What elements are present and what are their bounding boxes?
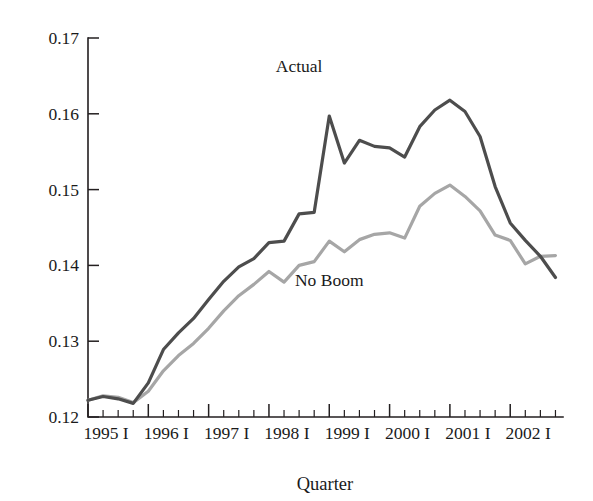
series-label-no-boom: No Boom <box>295 270 364 290</box>
x-axis-title: Quarter <box>297 474 354 494</box>
x-tick-label: 1998 I <box>264 423 309 443</box>
x-tick-label: 2001 I <box>445 423 490 443</box>
y-tick-label: 0.15 <box>48 180 79 200</box>
y-tick-label: 0.13 <box>48 331 79 351</box>
line-chart: 0.120.130.140.150.160.17 1995 I1996 I199… <box>0 0 593 501</box>
y-tick-label: 0.12 <box>48 407 79 427</box>
y-tick-label: 0.17 <box>48 28 79 48</box>
x-tick-label: 1995 I <box>83 423 128 443</box>
x-tick-label: 2000 I <box>385 423 430 443</box>
x-tick-label: 1996 I <box>144 423 189 443</box>
y-tick-label: 0.14 <box>48 255 79 275</box>
x-tick-label: 1997 I <box>204 423 249 443</box>
chart-figure: 0.120.130.140.150.160.17 1995 I1996 I199… <box>0 0 593 501</box>
series-label-actual: Actual <box>276 56 323 76</box>
x-tick-label: 1999 I <box>325 423 370 443</box>
y-tick-label: 0.16 <box>48 104 79 124</box>
x-tick-label: 2002 I <box>506 423 551 443</box>
